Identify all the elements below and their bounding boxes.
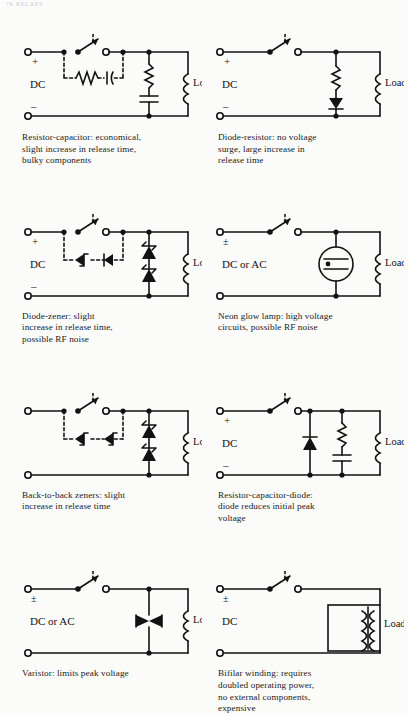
figure-cell-resistor-capacitor: + – DC Load Resistor-capacitor: economic… (0, 34, 204, 167)
polarity-plus-label: + (224, 414, 230, 426)
circuit-diagram-diode-resistor: + – DC Load (214, 34, 394, 130)
contact-open (103, 586, 109, 592)
terminal-top (217, 407, 223, 413)
terminal-bottom (217, 293, 223, 299)
circuit-diagram-neon-glow-lamp: ± DC or AC Load (214, 214, 394, 310)
figure-row: ± DC or AC Load Varistor: limits peak vo… (0, 571, 408, 714)
load-label: Load (384, 618, 404, 629)
zener-triangle (75, 254, 84, 266)
figure-row: + – DC Load Diode-zener: slight increase… (0, 214, 408, 346)
contact-open (295, 586, 301, 592)
zener-triangle (104, 433, 113, 445)
polarity-plusminus-label: ± (31, 593, 37, 604)
diode-triangle (329, 98, 343, 109)
polarity-plus-label: + (32, 55, 38, 67)
circuit-diagram-varistor: ± DC or AC Load (22, 571, 202, 667)
varistor-triangle-right (149, 615, 162, 627)
diode-triangle (104, 254, 113, 266)
contact-open (295, 407, 301, 413)
contact-open (103, 229, 109, 235)
terminal-bottom (217, 113, 223, 119)
diode-triangle (303, 437, 317, 450)
supply-label: DC (30, 78, 45, 90)
polarity-plusminus-label: ± (223, 236, 229, 247)
bifilar-coil-secondary (370, 611, 375, 651)
load-label: Load (385, 436, 404, 447)
load-label: Load (385, 257, 404, 268)
terminal-bottom (25, 471, 31, 477)
supply-label: DC or AC (30, 615, 75, 627)
terminal-top (217, 586, 223, 592)
contact-open (103, 49, 109, 55)
row-gap (0, 167, 408, 214)
circuit-diagram-diode-zener: + – DC Load (22, 214, 202, 310)
schematic-svg: Load (22, 393, 202, 489)
terminal-top (217, 229, 223, 235)
contact-open (295, 229, 301, 235)
figure-cell-resistor-capacitor-diode: + – DC Load Resistor-capacitor-diode: di… (204, 393, 408, 525)
polarity-minus-label: – (222, 100, 229, 112)
figure-cell-bifilar-winding: ± DC Load Bifilar winding: requires doub… (204, 571, 408, 714)
load-label: Load (193, 614, 202, 625)
varistor-triangle-left (136, 615, 149, 627)
circuit-diagram-resistor-capacitor-diode: + – DC Load (214, 393, 394, 489)
contact-open (103, 407, 109, 413)
bifilar-coil-primary (362, 611, 367, 651)
terminal-bottom (217, 471, 223, 477)
figure-caption: Diode-zener: slight increase in release … (22, 311, 204, 346)
schematic-svg: + – DC Load (214, 34, 404, 130)
row-gap (0, 346, 408, 393)
terminal-top (25, 229, 31, 235)
supply-label: DC or AC (222, 258, 267, 270)
polarity-minus-label: – (30, 100, 37, 112)
supply-label: DC (222, 78, 237, 90)
circuit-diagram-back-to-back-zeners: Load (22, 393, 202, 489)
terminal-bottom (25, 650, 31, 656)
figure-cell-diode-zener: + – DC Load Diode-zener: slight increase… (0, 214, 204, 346)
neon-gas-dot (326, 261, 331, 266)
supply-label: DC (222, 437, 237, 449)
zener-triangle (75, 433, 84, 445)
supply-label: DC (222, 615, 237, 627)
circuit-diagram-resistor-capacitor: + – DC Load (22, 34, 202, 130)
figure-caption: Resistor-capacitor: economical, slight i… (22, 132, 204, 167)
circuit-figure-grid: + – DC Load Resistor-capacitor: economic… (0, 34, 408, 715)
terminal-bottom (25, 293, 31, 299)
terminal-top (25, 49, 31, 55)
figure-caption: Back-to-back zeners: slight increase in … (22, 490, 204, 513)
schematic-svg: ± DC or AC Load (214, 214, 404, 310)
schematic-svg: ± DC or AC Load (22, 571, 202, 667)
polarity-plus-label: + (224, 55, 230, 67)
figure-cell-diode-resistor: + – DC Load Diode-resistor: no voltage s… (204, 34, 408, 167)
row-gap (0, 524, 408, 571)
schematic-svg: + – DC Load (214, 393, 404, 489)
load-label: Load (193, 77, 202, 88)
circuit-diagram-bifilar-winding: ± DC Load (214, 571, 394, 667)
running-head: 76 RELAYS (6, 1, 43, 7)
figure-caption: Resistor-capacitor-diode: diode reduces … (218, 490, 408, 525)
figure-cell-back-to-back-zeners: Load Back-to-back zeners: slight increas… (0, 393, 204, 525)
figure-row: Load Back-to-back zeners: slight increas… (0, 393, 408, 525)
load-label: Load (193, 436, 202, 447)
terminal-bottom (25, 113, 31, 119)
figure-cell-varistor: ± DC or AC Load Varistor: limits peak vo… (0, 571, 204, 714)
figure-cell-neon-glow-lamp: ± DC or AC Load Neon glow lamp: high vol… (204, 214, 408, 346)
terminal-top (25, 586, 31, 592)
schematic-svg: + – DC Load (22, 34, 202, 130)
schematic-svg: + – DC Load (22, 214, 202, 310)
terminal-top (217, 49, 223, 55)
figure-caption: Neon glow lamp: high voltage circuits, p… (218, 311, 408, 334)
terminal-top (25, 407, 31, 413)
load-label: Load (385, 77, 404, 88)
contact-open (295, 49, 301, 55)
load-label: Load (193, 257, 202, 268)
polarity-plusminus-label: ± (223, 593, 229, 604)
figure-row: + – DC Load Resistor-capacitor: economic… (0, 34, 408, 167)
polarity-plus-label: + (32, 235, 38, 247)
schematic-svg: ± DC Load (214, 571, 404, 667)
figure-caption: Diode-resistor: no voltage surge, large … (218, 132, 408, 167)
figure-caption: Bifilar winding: requires doubled operat… (218, 668, 408, 714)
neon-lamp-envelope (319, 247, 353, 281)
figure-caption: Varistor: limits peak voltage (22, 668, 204, 680)
polarity-minus-label: – (30, 280, 37, 292)
